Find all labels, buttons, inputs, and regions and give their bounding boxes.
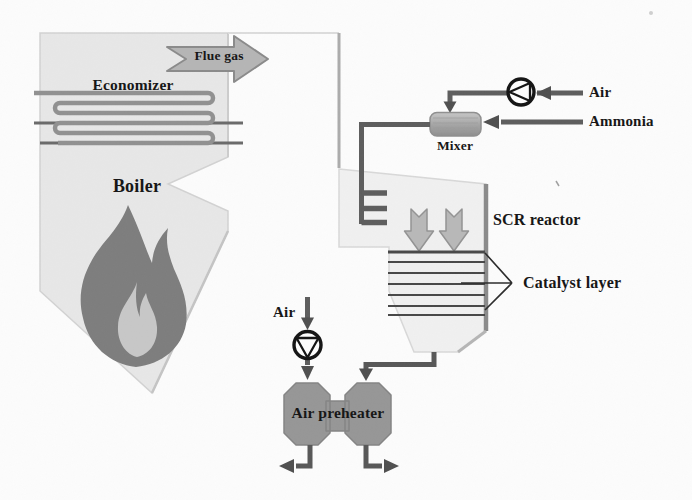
diagram-canvas (0, 0, 692, 500)
ammonia-label: Ammonia (589, 113, 654, 130)
flue-gas-label: Flue gas (186, 49, 252, 64)
air-top-label: Air (589, 84, 611, 101)
scr-system-diagram: Flue gas Economizer Boiler Air Ammonia M… (0, 0, 692, 500)
air-bottom-label: Air (273, 304, 295, 321)
catalyst-layer-label: Catalyst layer (523, 274, 621, 292)
mixer-label: Mixer (425, 139, 485, 154)
noise-overlay (0, 0, 692, 500)
boiler-label: Boiler (102, 177, 172, 197)
scr-reactor-label: SCR reactor (493, 211, 581, 229)
economizer-label: Economizer (78, 76, 188, 93)
air-preheater-label: Air preheater (277, 404, 399, 421)
